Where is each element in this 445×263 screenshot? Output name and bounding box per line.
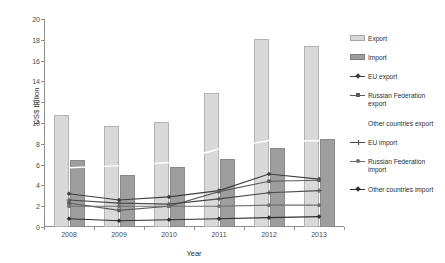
data-point — [67, 216, 72, 221]
y-tick-label: 8 — [10, 140, 44, 147]
legend-key-icon — [350, 34, 366, 42]
series-other-countries-import — [67, 214, 322, 223]
data-point — [267, 203, 271, 207]
legend-label: Import — [368, 53, 445, 62]
legend-swatch — [350, 35, 365, 41]
data-point — [217, 216, 222, 221]
series-line — [69, 174, 319, 200]
legend-item-export[interactable]: Export — [350, 34, 445, 43]
y-tick-label: 18 — [10, 36, 44, 43]
x-tick-label: 2008 — [44, 231, 94, 238]
series-other-countries-export — [69, 141, 319, 168]
chart-legend: ExportImportEU exportRussian Federation … — [350, 34, 445, 204]
x-tick-mark — [194, 227, 195, 230]
chart-container: US$ billion 02468101214161820 2008200920… — [0, 0, 445, 263]
data-point — [117, 218, 122, 223]
legend-label: EU export — [368, 72, 445, 81]
legend-label: Other countries export — [368, 119, 445, 128]
legend-key-icon — [350, 92, 366, 100]
y-tick-label: 2 — [10, 203, 44, 210]
legend-marker — [356, 159, 360, 163]
legend-item-import[interactable]: Import — [350, 53, 445, 62]
x-tick-mark — [94, 227, 95, 230]
y-tick-label: 4 — [10, 182, 44, 189]
data-point — [317, 214, 322, 219]
data-point — [67, 204, 71, 208]
legend-item-other-countries-import[interactable]: Other countries import — [350, 185, 445, 194]
data-point — [267, 215, 272, 220]
x-tick-mark — [294, 227, 295, 230]
data-point — [267, 190, 272, 195]
legend-label: Russian Federation export — [368, 92, 445, 109]
data-point — [317, 178, 321, 182]
y-tick-label: 16 — [10, 57, 44, 64]
legend-marker — [356, 93, 360, 97]
x-axis-title: Year — [44, 249, 344, 258]
x-tick-label: 2009 — [94, 231, 144, 238]
legend-label: Other countries import — [368, 185, 445, 194]
data-point — [317, 203, 321, 207]
series-line — [69, 191, 319, 205]
legend-swatch — [350, 54, 365, 60]
x-tick-mark — [244, 227, 245, 230]
data-point — [117, 209, 121, 213]
x-tick-mark — [344, 227, 345, 230]
y-tick-label: 0 — [10, 224, 44, 231]
series-line — [69, 205, 319, 206]
legend-key-icon — [350, 158, 366, 166]
data-point — [167, 217, 172, 222]
series-russian-federation-import — [67, 203, 321, 208]
y-tick-label: 10 — [10, 120, 44, 127]
legend-marker — [356, 139, 361, 144]
x-tick-label: 2010 — [144, 231, 194, 238]
legend-key-icon — [350, 185, 366, 193]
data-point — [167, 195, 172, 200]
series-line — [69, 141, 319, 168]
legend-item-russian-federation-import[interactable]: Russian Federation import — [350, 158, 445, 175]
legend-key-icon — [350, 72, 366, 80]
legend-label: Export — [368, 34, 445, 43]
legend-item-eu-export[interactable]: EU export — [350, 72, 445, 81]
legend-item-other-countries-export[interactable]: Other countries export — [350, 119, 445, 128]
series-russian-federation-export — [67, 178, 321, 212]
legend-label: Russian Federation import — [368, 158, 445, 175]
y-tick-label: 14 — [10, 78, 44, 85]
y-tick-label: 12 — [10, 99, 44, 106]
y-tick-label: 6 — [10, 161, 44, 168]
data-point — [267, 179, 271, 183]
series-eu-import — [67, 188, 322, 206]
legend-key-icon — [350, 138, 366, 146]
legend-marker — [355, 73, 361, 79]
data-point — [117, 204, 121, 208]
x-tick-label: 2012 — [244, 231, 294, 238]
x-tick-label: 2013 — [294, 231, 344, 238]
data-point — [167, 204, 171, 208]
line-series-group — [44, 19, 344, 227]
data-point — [317, 188, 322, 193]
data-point — [267, 172, 272, 177]
x-tick-mark — [44, 227, 45, 230]
legend-marker — [355, 186, 361, 192]
data-point — [217, 190, 221, 194]
data-point — [67, 191, 72, 196]
data-point — [217, 204, 221, 208]
legend-key-icon — [350, 53, 366, 61]
x-tick-mark — [144, 227, 145, 230]
series-eu-export — [67, 172, 322, 203]
legend-item-eu-import[interactable]: EU import — [350, 138, 445, 147]
data-point — [217, 197, 222, 202]
series-line — [69, 217, 319, 221]
plot-area: 02468101214161820 2008200920102011201220… — [44, 19, 344, 227]
legend-item-russian-federation-export[interactable]: Russian Federation export — [350, 92, 445, 109]
legend-label: EU import — [368, 138, 445, 147]
y-tick-label: 20 — [10, 16, 44, 23]
x-tick-label: 2011 — [194, 231, 244, 238]
